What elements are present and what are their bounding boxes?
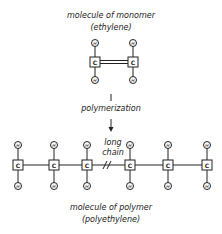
svg-text:C: C xyxy=(205,162,210,169)
monomer-hydrogen: H xyxy=(130,77,137,84)
chain-label-line2: chain xyxy=(102,148,124,157)
monomer-hydrogen: H xyxy=(130,40,137,47)
polymer-hydrogen: H xyxy=(127,183,134,190)
polymer-carbon: C xyxy=(49,160,59,170)
polymer-hydrogen: H xyxy=(165,142,172,149)
monomer-hydrogen: H xyxy=(92,77,99,84)
svg-text:C: C xyxy=(128,162,133,169)
polymer-subtitle: (polyethylene) xyxy=(82,215,140,224)
arrow-down-icon xyxy=(109,127,114,132)
polymer-hydrogen: H xyxy=(204,183,211,190)
polymer-carbon: C xyxy=(163,160,173,170)
polymer-hydrogen: H xyxy=(165,183,172,190)
polymer-hydrogen: H xyxy=(84,183,91,190)
svg-text:C: C xyxy=(85,162,90,169)
monomer-hydrogen: H xyxy=(92,40,99,47)
process-label: polymerization xyxy=(81,104,141,113)
chain-label-line1: long xyxy=(104,138,121,147)
polymer-hydrogen: H xyxy=(84,142,91,149)
polymer-hydrogen: H xyxy=(51,142,58,149)
monomer-carbon-2: C xyxy=(128,57,138,67)
polymer-carbon: C xyxy=(13,160,23,170)
svg-text:C: C xyxy=(16,162,21,169)
polymer-carbon: C xyxy=(82,160,92,170)
svg-text:C: C xyxy=(52,162,57,169)
polymer-hydrogen: H xyxy=(127,142,134,149)
polymer-hydrogen: H xyxy=(15,183,22,190)
polymer-carbon: C xyxy=(202,160,212,170)
diagram-canvas: C C H H H H C C C C C C H H H xyxy=(0,0,222,234)
monomer-carbon-1: C xyxy=(90,57,100,67)
svg-text:C: C xyxy=(93,59,98,66)
polymer-carbon: C xyxy=(125,160,135,170)
polymer-hydrogen: H xyxy=(15,142,22,149)
svg-text:C: C xyxy=(166,162,171,169)
polymer-hydrogen: H xyxy=(204,142,211,149)
polymer-title: molecule of polymer xyxy=(70,203,152,212)
polymer-hydrogen: H xyxy=(51,183,58,190)
svg-text:C: C xyxy=(131,59,136,66)
monomer-molecule: C C H H H H xyxy=(90,40,138,84)
